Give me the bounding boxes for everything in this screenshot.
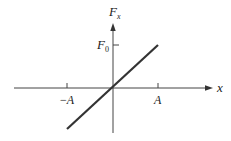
neg-a-label: −A <box>60 93 75 107</box>
x-axis-arrow-icon <box>205 85 213 90</box>
f0-label: F0 <box>96 37 109 54</box>
y-axis-arrow-icon <box>110 23 115 31</box>
force-vs-position-diagram: Fx F0 x −A A <box>0 0 231 141</box>
x-axis-label: x <box>216 80 223 95</box>
pos-a-label: A <box>153 93 162 107</box>
y-axis-label: Fx <box>108 4 121 21</box>
